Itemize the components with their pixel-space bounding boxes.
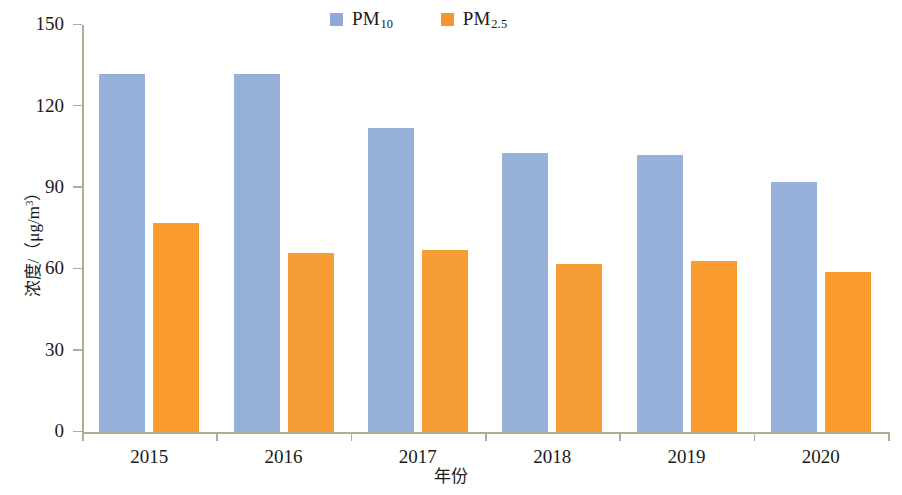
x-axis-tick xyxy=(619,432,621,441)
x-axis-tick xyxy=(485,432,487,441)
bar-pm10 xyxy=(99,74,145,432)
bar-pm10 xyxy=(502,153,548,432)
bar-group xyxy=(637,25,737,432)
x-axis-title: 年份 xyxy=(0,462,902,487)
y-axis-tick-label: 30 xyxy=(45,339,64,361)
bar-pm10 xyxy=(771,182,817,432)
legend-swatch-pm10 xyxy=(330,13,343,26)
bar-group xyxy=(99,25,199,432)
bar-group xyxy=(234,25,334,432)
bar-pm25 xyxy=(556,264,602,432)
y-axis-tick-label: 120 xyxy=(36,95,65,117)
plot-area: 0306090120150 xyxy=(82,25,888,432)
y-axis-tick: 30 xyxy=(73,349,82,351)
bar-pm25 xyxy=(691,261,737,432)
y-axis-tick-label: 60 xyxy=(45,257,64,279)
y-axis-tick: 0 xyxy=(73,431,82,433)
y-axis-tick-label: 0 xyxy=(55,420,65,442)
y-axis-tick: 60 xyxy=(73,268,82,270)
x-axis-tick xyxy=(216,432,218,441)
bar-group xyxy=(368,25,468,432)
bar-pm25 xyxy=(153,223,199,432)
bar-pm25 xyxy=(288,253,334,432)
bar-pm10 xyxy=(234,74,280,432)
bar-group xyxy=(502,25,602,432)
y-axis-tick: 90 xyxy=(73,186,82,188)
y-axis-tick-label: 90 xyxy=(45,176,64,198)
bar-pm10 xyxy=(368,128,414,432)
x-axis-tick xyxy=(888,432,890,441)
y-axis-tick: 120 xyxy=(73,105,82,107)
y-axis-tick: 150 xyxy=(73,24,82,26)
bar-pm25 xyxy=(825,272,871,432)
y-axis-tick-label: 150 xyxy=(36,13,65,35)
bar-pm10 xyxy=(637,155,683,432)
bar-group xyxy=(771,25,871,432)
x-axis-tick xyxy=(82,432,84,441)
x-axis-tick xyxy=(351,432,353,441)
pm-concentration-bar-chart: PM10 PM2.5 浓度/（μg/m3） 0306090120150 2015… xyxy=(0,0,902,495)
bar-groups xyxy=(82,25,888,432)
bar-pm25 xyxy=(422,250,468,432)
legend-swatch-pm25 xyxy=(441,13,454,26)
x-axis-tick xyxy=(754,432,756,441)
y-axis-title: 浓度/（μg/m3） xyxy=(19,126,44,356)
